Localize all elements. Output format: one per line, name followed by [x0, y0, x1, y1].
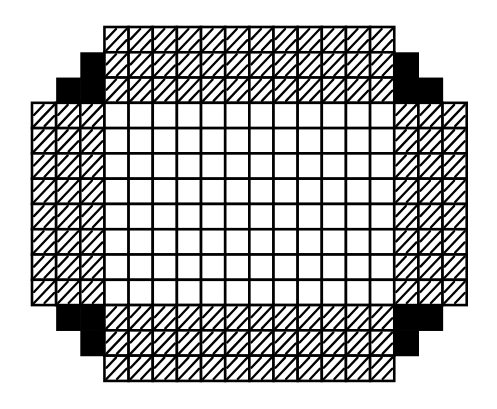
grid-cell-filled	[394, 305, 419, 331]
grid-cell-filled	[80, 330, 105, 356]
grid-cell-hatched	[322, 305, 346, 330]
grid-cell-hatched	[201, 305, 225, 330]
grid-cell-empty	[346, 179, 370, 204]
grid-cell-empty	[346, 204, 370, 229]
grid-cell-hatched	[346, 305, 370, 330]
grid-cell-empty	[201, 280, 225, 305]
grid-cell-hatched	[129, 305, 153, 330]
grid-cell-empty	[249, 103, 273, 128]
grid-cell-empty	[104, 153, 128, 178]
grid-cell-hatched	[56, 153, 80, 178]
grid-cell-empty	[274, 204, 298, 229]
grid-cell-empty	[249, 280, 273, 305]
grid-cell-hatched	[201, 27, 225, 52]
grid-cell-empty	[346, 103, 370, 128]
grid-cell-hatched	[394, 255, 418, 280]
grid-cell-hatched	[104, 52, 128, 77]
grid-cell-empty	[153, 128, 177, 153]
grid-cell-hatched	[104, 356, 128, 381]
grid-cell-hatched	[274, 27, 298, 52]
grid-cell-hatched	[249, 356, 273, 381]
grid-cell-hatched	[394, 229, 418, 254]
grid-cell-empty	[249, 255, 273, 280]
grid-cell-hatched	[346, 52, 370, 77]
grid-cell-empty	[225, 103, 249, 128]
grid-cell-hatched	[443, 280, 467, 305]
grid-cell-hatched	[104, 78, 128, 103]
grid-cell-hatched	[249, 27, 273, 52]
grid-cell-hatched	[80, 204, 104, 229]
grid-cell-empty	[225, 204, 249, 229]
grid-cell-hatched	[370, 52, 394, 77]
grid-cell-hatched	[443, 255, 467, 280]
grid-cell-hatched	[56, 229, 80, 254]
grid-cell-empty	[249, 153, 273, 178]
grid-cell-empty	[153, 103, 177, 128]
grid-cell-hatched	[443, 204, 467, 229]
grid-cell-empty	[225, 153, 249, 178]
grid-cell-empty	[298, 128, 322, 153]
grid-cell-hatched	[80, 255, 104, 280]
grid-cell-hatched	[104, 305, 128, 330]
grid-cell-hatched	[56, 103, 80, 128]
grid-cell-empty	[322, 128, 346, 153]
grid-cell-hatched	[394, 103, 418, 128]
grid-cell-empty	[177, 103, 201, 128]
grid-cell-hatched	[56, 204, 80, 229]
grid-cell-hatched	[177, 330, 201, 355]
grid-cell-empty	[274, 229, 298, 254]
grid-cell-hatched	[80, 280, 104, 305]
grid-cell-empty	[298, 153, 322, 178]
grid-cell-hatched	[153, 27, 177, 52]
grid-cell-empty	[322, 153, 346, 178]
grid-cell-hatched	[274, 78, 298, 103]
grid-cell-hatched	[394, 179, 418, 204]
grid-cell-hatched	[80, 179, 104, 204]
grid-cell-empty	[153, 179, 177, 204]
grid-cell-hatched	[418, 179, 442, 204]
grid-cell-empty	[298, 103, 322, 128]
grid-cell-empty	[104, 280, 128, 305]
grid-cell-hatched	[104, 27, 128, 52]
grid-cell-hatched	[418, 255, 442, 280]
grid-cell-empty	[370, 153, 394, 178]
grid-cell-hatched	[298, 78, 322, 103]
grid-cell-empty	[322, 204, 346, 229]
grid-cell-hatched	[32, 179, 56, 204]
grid-cell-empty	[129, 229, 153, 254]
grid-cell-empty	[153, 280, 177, 305]
grid-cell-empty	[177, 179, 201, 204]
grid-cell-empty	[177, 229, 201, 254]
grid-cell-hatched	[443, 179, 467, 204]
grid-cell-empty	[104, 255, 128, 280]
grid-cell-empty	[249, 229, 273, 254]
grid-cell-hatched	[80, 153, 104, 178]
grid-cell-hatched	[418, 280, 442, 305]
grid-cell-hatched	[418, 128, 442, 153]
grid-cell-hatched	[177, 305, 201, 330]
grid-cell-hatched	[418, 103, 442, 128]
grid-cell-empty	[298, 204, 322, 229]
grid-cell-empty	[225, 229, 249, 254]
grid-cell-empty	[274, 280, 298, 305]
grid-cell-empty	[104, 128, 128, 153]
grid-cell-empty	[298, 179, 322, 204]
grid-cell-hatched	[104, 330, 128, 355]
grid-cell-empty	[201, 255, 225, 280]
grid-cell-hatched	[298, 305, 322, 330]
grid-cell-filled	[394, 78, 419, 104]
grid-cell-empty	[129, 179, 153, 204]
grid-cell-hatched	[177, 27, 201, 52]
grid-cell-hatched	[225, 330, 249, 355]
grid-cell-hatched	[153, 356, 177, 381]
grid-cell-hatched	[249, 305, 273, 330]
grid-cell-empty	[129, 128, 153, 153]
grid-cell-filled	[394, 52, 419, 78]
grid-cell-empty	[249, 128, 273, 153]
grid-cell-hatched	[225, 356, 249, 381]
grid-cell-empty	[153, 255, 177, 280]
grid-cell-empty	[129, 280, 153, 305]
grid-cell-hatched	[443, 128, 467, 153]
grid-cell-hatched	[80, 103, 104, 128]
grid-cell-empty	[298, 255, 322, 280]
